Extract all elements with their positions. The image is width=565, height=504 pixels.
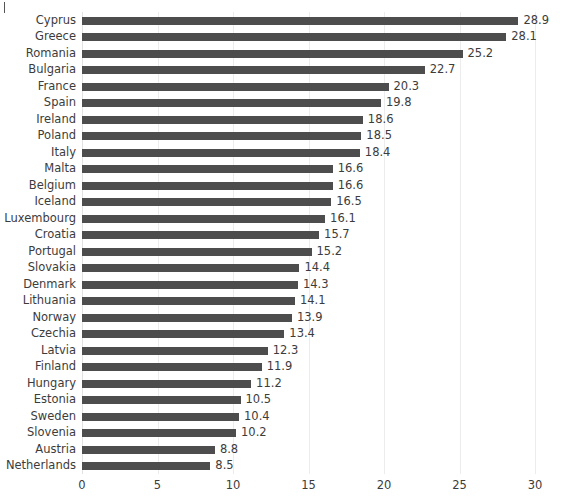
category-label: Cyprus (0, 12, 76, 29)
bar[interactable] (82, 231, 319, 239)
bar-value-label: 12.3 (273, 342, 299, 359)
bar-row: 10.4 (82, 408, 535, 425)
bar[interactable] (82, 83, 389, 91)
bar[interactable] (82, 248, 312, 256)
bar-value-label: 16.6 (338, 160, 364, 177)
bar-value-label: 14.4 (304, 259, 330, 276)
category-axis: CyprusGreeceRomaniaBulgariaFranceSpainIr… (0, 12, 76, 474)
category-label: Ireland (0, 111, 76, 128)
bar[interactable] (82, 66, 425, 74)
bar-value-label: 10.5 (246, 391, 272, 408)
bar[interactable] (82, 182, 333, 190)
category-label: Belgium (0, 177, 76, 194)
category-label: Norway (0, 309, 76, 326)
category-label: Hungary (0, 375, 76, 392)
bar-row: 16.5 (82, 194, 535, 211)
bar[interactable] (82, 347, 268, 355)
bar[interactable] (82, 198, 331, 206)
bar-value-label: 18.6 (368, 111, 394, 128)
bar-value-label: 11.9 (267, 358, 293, 375)
category-label: France (0, 78, 76, 95)
bar-row: 8.5 (82, 458, 535, 475)
category-label: Slovakia (0, 259, 76, 276)
category-label: Estonia (0, 391, 76, 408)
bar-chart: CyprusGreeceRomaniaBulgariaFranceSpainIr… (0, 0, 565, 504)
bar-value-label: 16.5 (336, 193, 362, 210)
category-label: Austria (0, 441, 76, 458)
bar-value-label: 10.2 (241, 424, 267, 441)
bar[interactable] (82, 33, 506, 41)
x-tick-label: 20 (377, 478, 392, 492)
bar[interactable] (82, 413, 239, 421)
bar[interactable] (82, 380, 251, 388)
bar[interactable] (82, 215, 325, 223)
category-label: Sweden (0, 408, 76, 425)
bar-row: 18.5 (82, 128, 535, 145)
bar-value-label: 13.4 (289, 325, 315, 342)
bar-row: 18.6 (82, 111, 535, 128)
bar-value-label: 18.5 (366, 127, 392, 144)
category-label: Czechia (0, 325, 76, 342)
bar[interactable] (82, 396, 241, 404)
bar[interactable] (82, 149, 360, 157)
bar-value-label: 8.8 (220, 441, 238, 458)
bar-value-label: 25.2 (468, 45, 494, 62)
bar-row: 25.2 (82, 45, 535, 62)
bar-value-label: 22.7 (430, 61, 456, 78)
bar[interactable] (82, 446, 215, 454)
x-tick-label: 0 (78, 478, 85, 492)
bar[interactable] (82, 314, 292, 322)
bar-value-label: 18.4 (365, 144, 391, 161)
bar[interactable] (82, 116, 363, 124)
x-tick-label: 5 (154, 478, 161, 492)
x-tick-label: 15 (301, 478, 316, 492)
bar-value-label: 11.2 (256, 375, 282, 392)
category-label: Lithuania (0, 292, 76, 309)
bar[interactable] (82, 99, 381, 107)
bar[interactable] (82, 363, 262, 371)
bar-value-label: 20.3 (394, 78, 420, 95)
bar-row: 12.3 (82, 342, 535, 359)
bar-row: 10.5 (82, 392, 535, 409)
bar-value-label: 14.3 (303, 276, 329, 293)
bar-row: 10.2 (82, 425, 535, 442)
bar[interactable] (82, 429, 236, 437)
bar[interactable] (82, 50, 463, 58)
bar-value-label: 16.1 (330, 210, 356, 227)
bar[interactable] (82, 17, 518, 25)
bar-row: 13.4 (82, 326, 535, 343)
category-label: Croatia (0, 226, 76, 243)
bar-value-label: 19.8 (386, 94, 412, 111)
bar-value-label: 13.9 (297, 309, 323, 326)
category-label: Denmark (0, 276, 76, 293)
bar[interactable] (82, 297, 295, 305)
gridline-30 (535, 12, 536, 474)
bar[interactable] (82, 462, 210, 470)
x-tick-label: 30 (528, 478, 543, 492)
category-label: Spain (0, 94, 76, 111)
bar-value-label: 14.1 (300, 292, 326, 309)
bar-row: 16.6 (82, 161, 535, 178)
category-label: Bulgaria (0, 61, 76, 78)
category-label: Malta (0, 160, 76, 177)
bar[interactable] (82, 132, 361, 140)
bar-row: 16.1 (82, 210, 535, 227)
x-tick-label: 25 (452, 478, 467, 492)
bar-value-label: 15.7 (324, 226, 350, 243)
bar-value-label: 15.2 (317, 243, 343, 260)
category-label: Italy (0, 144, 76, 161)
category-label: Latvia (0, 342, 76, 359)
category-label: Romania (0, 45, 76, 62)
bar-row: 11.2 (82, 375, 535, 392)
bar-row: 8.8 (82, 441, 535, 458)
bar-row: 22.7 (82, 62, 535, 79)
bar-row: 14.3 (82, 276, 535, 293)
category-label: Finland (0, 358, 76, 375)
category-label: Poland (0, 127, 76, 144)
bar[interactable] (82, 281, 298, 289)
bar-row: 20.3 (82, 78, 535, 95)
bar[interactable] (82, 330, 284, 338)
bar-row: 13.9 (82, 309, 535, 326)
bar[interactable] (82, 264, 299, 272)
bar[interactable] (82, 165, 333, 173)
